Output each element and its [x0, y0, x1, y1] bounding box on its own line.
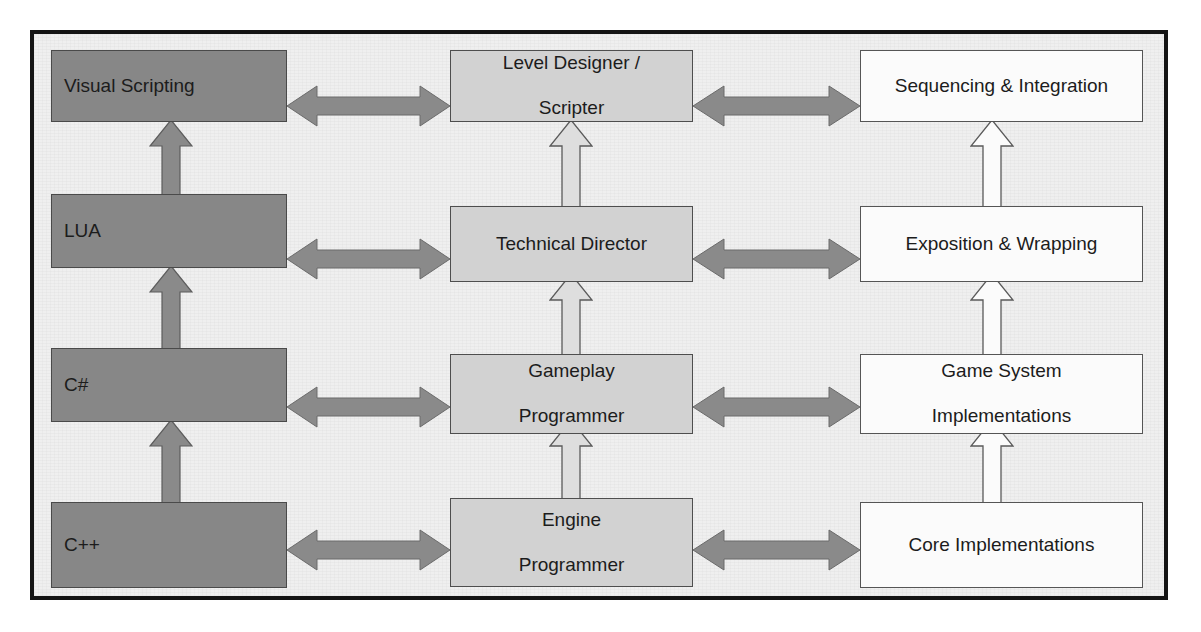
arrow-cplusplus-up-to-csharp [149, 420, 193, 504]
node-engine-programmer[interactable]: Engine Programmer [450, 498, 693, 587]
arrow-exposition-up-to-sequencing [970, 120, 1014, 208]
node-exposition-wrapping[interactable]: Exposition & Wrapping [860, 206, 1143, 282]
node-gameplay-programmer[interactable]: Gameplay Programmer [450, 354, 693, 434]
node-cplusplus-label: C++ [64, 534, 286, 556]
arrow-visual-scripting-to-level-designer [287, 84, 450, 128]
node-game-system-implementations-label: Game System Implementations [861, 360, 1142, 427]
node-sequencing-integration[interactable]: Sequencing & Integration [860, 50, 1143, 122]
node-visual-scripting[interactable]: Visual Scripting [51, 50, 287, 122]
node-csharp[interactable]: C# [51, 348, 287, 422]
node-visual-scripting-label: Visual Scripting [64, 75, 286, 97]
node-level-designer-line-2: Scripter [451, 97, 692, 119]
node-level-designer-scripter-label: Level Designer / Scripter [451, 52, 692, 119]
node-engine-programmer-label: Engine Programmer [451, 509, 692, 576]
arrow-lua-up-to-visual-scripting [149, 120, 193, 196]
arrow-level-designer-to-sequencing [693, 84, 860, 128]
node-level-designer-line-1: Level Designer / [451, 52, 692, 74]
arrow-technical-director-to-exposition [693, 237, 860, 281]
arrow-technical-director-up-to-level-designer [549, 120, 593, 208]
node-engine-programmer-line-2: Programmer [451, 554, 692, 576]
node-sequencing-integration-label: Sequencing & Integration [861, 75, 1142, 97]
arrow-engine-programmer-to-core-implementations [693, 528, 860, 572]
node-core-implementations-label: Core Implementations [861, 534, 1142, 556]
node-gameplay-programmer-line-2: Programmer [451, 405, 692, 427]
diagram-canvas: Visual Scripting LUA C# C++ Level Design… [0, 0, 1201, 632]
node-gameplay-programmer-line-1: Gameplay [451, 360, 692, 382]
node-level-designer-scripter[interactable]: Level Designer / Scripter [450, 50, 693, 122]
node-game-system-line-1: Game System [861, 360, 1142, 382]
arrow-game-system-up-to-exposition [970, 274, 1014, 359]
node-lua[interactable]: LUA [51, 194, 287, 268]
node-technical-director[interactable]: Technical Director [450, 206, 693, 282]
node-lua-label: LUA [64, 220, 286, 242]
diagram-frame: Visual Scripting LUA C# C++ Level Design… [30, 30, 1168, 600]
node-csharp-label: C# [64, 374, 286, 396]
arrow-csharp-to-gameplay-programmer [287, 385, 450, 429]
arrow-gameplay-programmer-to-game-system [693, 385, 860, 429]
node-game-system-implementations[interactable]: Game System Implementations [860, 354, 1143, 434]
arrow-cplusplus-to-engine-programmer [287, 528, 450, 572]
node-engine-programmer-line-1: Engine [451, 509, 692, 531]
node-game-system-line-2: Implementations [861, 405, 1142, 427]
node-core-implementations[interactable]: Core Implementations [860, 502, 1143, 588]
node-gameplay-programmer-label: Gameplay Programmer [451, 360, 692, 427]
arrow-gameplay-programmer-up-to-technical-director [549, 274, 593, 359]
arrow-lua-to-technical-director [287, 237, 450, 281]
node-cplusplus[interactable]: C++ [51, 502, 287, 588]
node-exposition-wrapping-label: Exposition & Wrapping [861, 233, 1142, 255]
node-technical-director-label: Technical Director [451, 233, 692, 255]
